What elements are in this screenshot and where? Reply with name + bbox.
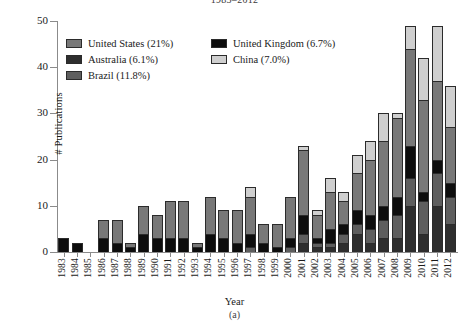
- x-tick-2006: [370, 253, 371, 257]
- x-tick-label-2007: 2007: [377, 258, 391, 278]
- x-tick-2007: [384, 253, 385, 257]
- x-tick-2003: [330, 253, 331, 257]
- x-tick-2002: [317, 253, 318, 257]
- bar-segment-united-states-1986: [98, 220, 109, 238]
- bar-segment-united-states-2004: [338, 201, 349, 224]
- bar-segment-united-kingdom-1988: [125, 247, 136, 252]
- x-tick-label-2005: 2005: [350, 258, 364, 278]
- x-tick-label-1983: 1983: [57, 258, 71, 278]
- bar-segment-united-states-2011: [432, 81, 443, 160]
- bar-segment-australia-2001: [298, 243, 309, 252]
- x-tick-2001: [304, 253, 305, 257]
- bar-segment-united-kingdom-1987: [112, 243, 123, 252]
- bar-segment-australia-2005: [352, 234, 363, 252]
- x-tick-label-1994: 1994: [203, 258, 217, 278]
- bar-segment-brazil-2011: [432, 173, 443, 205]
- bar-segment-australia-2008: [392, 238, 403, 252]
- y-tick-label-40: 40: [2, 60, 48, 72]
- bar-segment-united-kingdom-2006: [365, 215, 376, 229]
- bar-segment-united-states-1991: [165, 201, 176, 238]
- x-tick-label-1987: 1987: [110, 258, 124, 278]
- x-tick-2012: [450, 253, 451, 257]
- x-tick-label-2009: 2009: [403, 258, 417, 278]
- x-tick-1983: [64, 253, 65, 257]
- x-tick-label-2004: 2004: [337, 258, 351, 278]
- bar-segment-brazil-2001: [298, 234, 309, 243]
- x-tick-label-2010: 2010: [417, 258, 431, 278]
- bar-segment-china-2006: [365, 141, 376, 159]
- figure-panel-a: 1983–2012 01020304050 # Publications 198…: [0, 0, 469, 326]
- legend-row: Australia (6.1%)China (7.0%): [66, 54, 356, 65]
- bar-segment-brazil-2004: [338, 234, 349, 243]
- bar-segment-australia-2012: [445, 224, 456, 252]
- bar-segment-united-kingdom-2005: [352, 210, 363, 224]
- x-tick-1996: [237, 253, 238, 257]
- bar-segment-united-kingdom-1998: [258, 243, 269, 252]
- bar-segment-united-states-2000: [285, 197, 296, 239]
- bar-segment-china-2010: [418, 58, 429, 100]
- bar-segment-united-states-1990: [152, 215, 163, 238]
- bar-segment-united-kingdom-1999: [272, 247, 283, 252]
- legend-swatch-icon: [211, 55, 227, 64]
- bar-segment-australia-2010: [418, 234, 429, 252]
- bar-segment-united-kingdom-1995: [218, 238, 229, 252]
- bar-segment-china-1997: [245, 187, 256, 196]
- bar-segment-united-kingdom-1992: [178, 238, 189, 252]
- bar-segment-united-states-2001: [298, 150, 309, 215]
- bar-segment-united-kingdom-1983: [58, 238, 69, 252]
- x-tick-1998: [264, 253, 265, 257]
- bar-segment-united-states-2003: [325, 192, 336, 229]
- x-tick-label-1992: 1992: [177, 258, 191, 278]
- legend-label: Australia (6.1%): [88, 54, 158, 65]
- x-tick-label-1985: 1985: [83, 258, 97, 278]
- bar-segment-china-2011: [432, 26, 443, 81]
- bar-segment-united-kingdom-2000: [285, 238, 296, 247]
- x-tick-1986: [104, 253, 105, 257]
- legend-swatch-icon: [66, 71, 82, 80]
- x-tick-label-1989: 1989: [137, 258, 151, 278]
- bar-segment-china-2004: [338, 192, 349, 201]
- x-tick-2008: [397, 253, 398, 257]
- x-tick-label-1984: 1984: [70, 258, 84, 278]
- x-tick-label-1993: 1993: [190, 258, 204, 278]
- x-tick-label-2000: 2000: [283, 258, 297, 278]
- bar-segment-brazil-2007: [378, 220, 389, 238]
- y-tick-label-30: 30: [2, 106, 48, 118]
- bar-segment-united-kingdom-2011: [432, 160, 443, 174]
- bar-segment-united-states-2010: [418, 100, 429, 192]
- bar-segment-australia-2009: [405, 206, 416, 252]
- bar-segment-united-states-1994: [205, 197, 216, 234]
- x-tick-1988: [130, 253, 131, 257]
- legend-united-kingdom: United Kingdom (6.7%): [211, 38, 356, 49]
- legend-label: United States (21%): [88, 38, 173, 49]
- legend-united-states: United States (21%): [66, 38, 211, 49]
- x-tick-label-2001: 2001: [297, 258, 311, 278]
- y-tick-label-20: 20: [2, 153, 48, 165]
- bar-segment-united-states-1995: [218, 210, 229, 238]
- x-tick-2004: [344, 253, 345, 257]
- figure-title-clipped: 1983–2012: [0, 0, 469, 5]
- x-tick-2000: [290, 253, 291, 257]
- legend-swatch-icon: [211, 39, 227, 48]
- x-tick-label-2011: 2011: [430, 258, 444, 277]
- bar-segment-united-kingdom-1986: [98, 238, 109, 252]
- x-tick-1990: [157, 253, 158, 257]
- x-axis-labels: 1983198419851986198719881989199019911992…: [57, 258, 458, 294]
- bar-segment-united-kingdom-2001: [298, 215, 309, 233]
- bar-segment-united-states-1992: [178, 201, 189, 238]
- bar-segment-united-kingdom-2004: [338, 224, 349, 233]
- bar-segment-united-states-2002: [312, 215, 323, 238]
- bar-segment-united-states-2007: [378, 141, 389, 206]
- legend-swatch-icon: [66, 39, 82, 48]
- figure-caption: (a): [0, 309, 469, 320]
- bar-segment-united-kingdom-2009: [405, 146, 416, 178]
- bar-segment-united-kingdom-1990: [152, 238, 163, 252]
- bar-segment-australia-2002: [312, 247, 323, 252]
- bar-segment-united-kingdom-2003: [325, 229, 336, 243]
- x-tick-label-1998: 1998: [257, 258, 271, 278]
- x-tick-1995: [224, 253, 225, 257]
- x-tick-label-2012: 2012: [443, 258, 457, 278]
- y-axis-labels: 01020304050: [0, 0, 48, 326]
- y-tick-label-0: 0: [2, 245, 48, 257]
- x-tick-2009: [410, 253, 411, 257]
